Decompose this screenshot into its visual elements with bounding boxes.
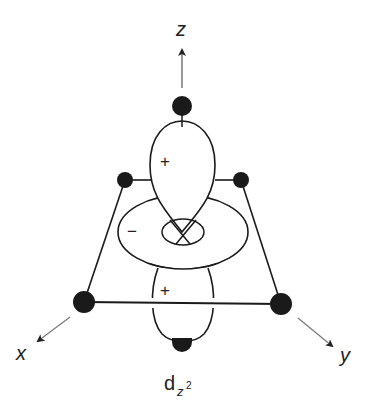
orbital-title-d: d: [164, 372, 175, 394]
ligand-bottom: [172, 338, 192, 352]
x-axis-label: x: [15, 342, 27, 364]
orbital-title: d z 2: [164, 372, 192, 399]
orbital-title-subscript: z: [176, 384, 184, 399]
y-axis-label: y: [338, 344, 351, 366]
ligand-front-left: [73, 291, 95, 313]
y-axis-arrow: [298, 318, 332, 346]
z-axis-label: z: [175, 18, 186, 40]
ligand-back-right: [233, 172, 249, 188]
front-ligand-line: [84, 298, 281, 308]
ligand-back-left: [117, 172, 133, 188]
dz2-orbital-diagram: + − + z x y d z 2: [0, 0, 368, 403]
upper-lobe-sign: +: [160, 152, 170, 171]
ligand-front-right: [270, 293, 292, 315]
x-axis-arrow: [38, 317, 70, 341]
torus-sign: −: [127, 222, 137, 241]
lower-lobe-sign: +: [160, 281, 170, 300]
orbital-title-superscript: 2: [186, 380, 192, 391]
